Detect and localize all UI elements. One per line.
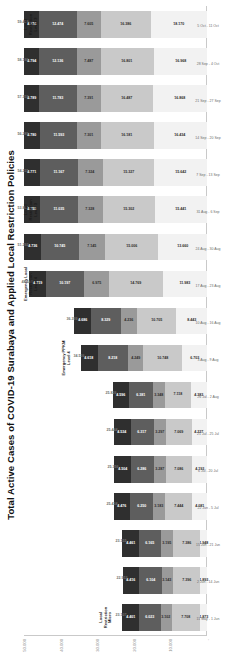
bar-segment[interactable]: 6.286 [131, 456, 154, 483]
bar-segment[interactable]: 7.605 [77, 11, 100, 38]
bar-segment[interactable]: 10.197 [46, 271, 83, 298]
bar-segment[interactable]: 7.328 [78, 196, 103, 223]
bar-slot[interactable]: 4.0817.4443.1836.2504.47625.434 [24, 488, 207, 525]
segment-value-label: 4.236 [125, 319, 134, 323]
bar-slot[interactable]: 4.2277.0693.2976.3174.53425.444 [24, 414, 207, 451]
bar-segment[interactable]: 16.487 [101, 85, 154, 112]
bar-segment[interactable]: 8.218 [98, 345, 128, 372]
stacked-bar[interactable]: 16.43416.1817.30111.5934.78056.289 [24, 122, 207, 149]
stacked-bar[interactable]: 4.0817.4443.1836.2504.47625.434 [114, 493, 207, 520]
bar-slot[interactable]: 1.8937.3963.1436.1044.41622.952 [24, 562, 207, 599]
bar-segment[interactable]: 3.143 [162, 567, 174, 594]
bar-segment[interactable]: 4.416 [123, 567, 139, 594]
stacked-bar[interactable]: 15.44115.3027.32811.0354.75553.861 [24, 196, 207, 223]
bar-segment[interactable]: 3.348 [153, 382, 165, 409]
segment-value-label: 15.327 [123, 171, 134, 175]
bar-segment[interactable]: 3.287 [154, 456, 166, 483]
bar-segment[interactable]: 15.327 [103, 159, 155, 186]
bar-segment[interactable]: 7.324 [78, 159, 103, 186]
y-axis: -10.00020.00030.00040.00050.000 [24, 636, 207, 670]
bar-segment[interactable]: 3.297 [154, 419, 166, 446]
bar-segment[interactable]: 11.035 [40, 196, 77, 223]
bar-segment[interactable]: 10.745 [41, 234, 79, 261]
bar-segment[interactable]: 4.249 [128, 345, 144, 372]
stacked-bar[interactable]: 16.86816.4877.39111.7834.78957.318 [24, 85, 207, 112]
bar-segment[interactable]: 7.487 [77, 48, 101, 75]
bar-segment[interactable]: 3.195 [161, 530, 173, 557]
bar-segment[interactable]: 16.801 [101, 48, 154, 75]
bar-segment[interactable]: 12.136 [39, 48, 77, 75]
segment-value-label: 4.736 [28, 245, 37, 249]
bar-slot[interactable]: 6.70310.7484.2498.2184.61834.536 [24, 340, 207, 377]
stacked-bar[interactable]: 1.9487.3863.1956.1654.46123.155 [122, 530, 207, 557]
stacked-bar[interactable]: 6.70310.7484.2498.2184.61834.536 [81, 345, 207, 372]
bar-segment[interactable]: 6.975 [84, 271, 110, 298]
bar-segment[interactable]: 6.250 [130, 493, 153, 520]
bar-slot[interactable]: 4.3837.1183.3486.3814.59625.826 [24, 377, 207, 414]
bar-segment[interactable]: 10.748 [143, 345, 182, 372]
bar-segment[interactable]: 4.476 [114, 493, 130, 520]
bar-segment[interactable]: 14.769 [109, 271, 163, 298]
stacked-bar[interactable]: 13.66015.0067.14510.7454.73651.292 [24, 234, 207, 261]
stacked-bar[interactable]: 4.1937.0863.2876.2864.50425.356 [114, 456, 207, 483]
bar-segment[interactable]: 7.145 [79, 234, 104, 261]
bar-segment[interactable]: 10.705 [137, 308, 176, 335]
bar-segment[interactable]: 6.104 [139, 567, 161, 594]
bar-segment[interactable]: 7.391 [77, 85, 101, 112]
bar-slot[interactable]: 16.43416.1817.30111.5934.78056.289 [24, 117, 207, 154]
segment-value-label: 4.401 [126, 616, 135, 620]
bar-segment[interactable]: 3.102 [161, 604, 172, 631]
bar-segment[interactable]: 11.167 [40, 159, 78, 186]
bar-segment[interactable]: 6.023 [139, 604, 161, 631]
bar-segment[interactable]: 7.086 [166, 456, 192, 483]
bar-segment[interactable]: 4.534 [114, 419, 131, 446]
bar-segment[interactable]: 11.593 [40, 122, 78, 149]
bar-segment[interactable]: 7.069 [166, 419, 192, 446]
bar-segment[interactable]: 6.165 [139, 530, 162, 557]
stacked-bar[interactable]: 4.3837.1183.3486.3814.59625.826 [112, 382, 207, 409]
bar-slot[interactable]: 4.1937.0863.2876.2864.50425.356 [24, 451, 207, 488]
bar-slot[interactable]: 18.17016.3867.60512.4744.77459.409 [24, 6, 207, 43]
segment-value-label: 4.534 [118, 430, 127, 434]
bar-slot[interactable]: 15.44115.3027.32811.0354.75553.861 [24, 191, 207, 228]
stacked-bar[interactable]: 11.98314.7696.97510.1974.71948.643 [29, 271, 207, 298]
bar-segment[interactable]: 7.444 [165, 493, 192, 520]
stacked-bar[interactable]: 16.96816.8017.48712.1364.79458.186 [24, 48, 207, 75]
bar-segment[interactable]: 6.381 [129, 382, 152, 409]
stacked-bar[interactable]: 18.17016.3867.60512.4744.77459.409 [24, 11, 207, 38]
bar-slot[interactable]: 1.8737.7083.1026.0234.40123.107 [24, 599, 207, 636]
bar-slot[interactable]: 11.98314.7696.97510.1974.71948.643 [24, 265, 207, 302]
x-tick: 11 May - 1 Jun [207, 599, 237, 636]
segment-value-label: 4.771 [28, 171, 37, 175]
bar-segment[interactable]: 4.401 [122, 604, 138, 631]
bar-segment[interactable]: 15.006 [105, 234, 159, 261]
bar-segment[interactable]: 7.118 [165, 382, 191, 409]
bar-segment[interactable]: 4.461 [122, 530, 138, 557]
bar-slot[interactable]: 13.66015.0067.14510.7454.73651.292 [24, 228, 207, 265]
bar-slot[interactable]: 16.86816.4877.39111.7834.78957.318 [24, 80, 207, 117]
bar-segment[interactable]: 16.181 [101, 122, 154, 149]
stacked-bar[interactable]: 8.44310.7054.2368.3294.68636.399 [74, 308, 207, 335]
stacked-bar[interactable]: 15.64215.3277.32411.1674.77154.231 [24, 159, 207, 186]
stacked-bar[interactable]: 1.8937.3963.1436.1044.41622.952 [123, 567, 207, 594]
segment-value-label: 16.868 [175, 97, 186, 101]
segment-value-label: 15.441 [175, 208, 186, 212]
bar-segment[interactable]: 6.317 [131, 419, 154, 446]
bar-segment[interactable]: 4.618 [81, 345, 98, 372]
stacked-bar[interactable]: 4.2277.0693.2976.3174.53425.444 [114, 419, 207, 446]
bar-slot[interactable]: 15.64215.3277.32411.1674.77154.231 [24, 154, 207, 191]
bar-segment[interactable]: 16.386 [101, 11, 151, 38]
bar-slot[interactable]: 1.9487.3863.1956.1654.46123.155 [24, 525, 207, 562]
bar-segment[interactable]: 12.474 [39, 11, 77, 38]
bar-segment[interactable]: 15.302 [103, 196, 155, 223]
bar-segment[interactable]: 11.783 [39, 85, 77, 112]
bar-slot[interactable]: 8.44310.7054.2368.3294.68636.399 [24, 302, 207, 339]
bar-segment[interactable]: 7.301 [77, 122, 101, 149]
bar-segment[interactable]: 8.329 [91, 308, 121, 335]
stacked-bar[interactable]: 1.8737.7083.1026.0234.40123.107 [122, 604, 207, 631]
bar-slot[interactable]: 16.96816.8017.48712.1364.79458.186 [24, 43, 207, 80]
bar-segment[interactable]: 4.596 [113, 382, 130, 409]
bar-segment[interactable]: 4.504 [114, 456, 130, 483]
bar-segment[interactable]: 4.236 [121, 308, 137, 335]
bar-segment[interactable]: 3.183 [153, 493, 165, 520]
